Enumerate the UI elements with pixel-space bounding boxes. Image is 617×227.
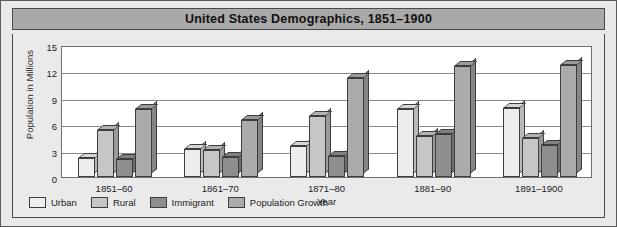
bar-side-face (152, 101, 157, 173)
legend-item[interactable]: Rural (91, 197, 136, 208)
bar[interactable] (135, 109, 152, 177)
bar-front-face (328, 156, 345, 177)
y-axis-title: Population in Millions (24, 30, 35, 160)
bar[interactable] (328, 156, 345, 177)
bar-group (381, 47, 487, 177)
legend-label: Population Growth (250, 197, 328, 208)
bars-layer (62, 47, 591, 177)
chart-panel: Population in Millions 03691215 1851–601… (12, 34, 605, 218)
legend-item[interactable]: Immigrant (150, 197, 214, 208)
y-axis-tick-label: 9 (52, 94, 57, 105)
bar[interactable] (222, 157, 239, 177)
x-axis-tick-label: 1891–1900 (515, 183, 563, 194)
bar-front-face (503, 108, 520, 177)
bar-front-face (97, 130, 114, 177)
bar-group (62, 47, 168, 177)
bar-front-face (522, 138, 539, 177)
bar[interactable] (347, 78, 364, 177)
bar-group (168, 47, 274, 177)
bar-front-face (203, 150, 220, 177)
x-axis-tick-label: 1861–70 (202, 183, 239, 194)
y-axis-tick-label: 0 (52, 174, 57, 185)
bar[interactable] (454, 66, 471, 177)
bar[interactable] (541, 145, 558, 177)
bar-side-face (364, 70, 369, 173)
x-axis-tick-label: 1871–80 (308, 183, 345, 194)
bar[interactable] (78, 158, 95, 177)
legend-label: Urban (51, 197, 77, 208)
y-axis-tick-label: 15 (46, 42, 57, 53)
legend-label: Rural (113, 197, 136, 208)
bar[interactable] (97, 130, 114, 177)
bar-front-face (454, 66, 471, 177)
bar[interactable] (560, 65, 577, 177)
legend-item[interactable]: Population Growth (228, 197, 328, 208)
bar[interactable] (184, 149, 201, 177)
bar-front-face (347, 78, 364, 177)
bar[interactable] (290, 146, 307, 177)
bar[interactable] (116, 159, 133, 177)
bar-side-face (471, 58, 476, 173)
y-axis-tick-label: 3 (52, 147, 57, 158)
bar-front-face (78, 158, 95, 177)
bar[interactable] (397, 109, 414, 177)
bar-front-face (397, 109, 414, 177)
legend-item[interactable]: Urban (29, 197, 77, 208)
bar-front-face (135, 109, 152, 177)
bar-side-face (258, 112, 263, 173)
y-axis-tick-label: 6 (52, 121, 57, 132)
chart-title: United States Demographics, 1851–1900 (185, 12, 432, 26)
x-axis-tick-label: 1881–90 (414, 183, 451, 194)
bar[interactable] (503, 108, 520, 177)
bar-side-face (577, 57, 582, 173)
bar[interactable] (203, 150, 220, 177)
legend-swatch-rural (91, 197, 108, 208)
chart-title-bar: United States Demographics, 1851–1900 (12, 8, 605, 30)
plot-area: 03691215 (61, 46, 592, 178)
y-axis-tick-label: 12 (46, 68, 57, 79)
bar-front-face (290, 146, 307, 177)
bar[interactable] (241, 120, 258, 177)
x-axis-tick-label: 1851–60 (96, 183, 133, 194)
legend-swatch-urban (29, 197, 46, 208)
bar-front-face (416, 136, 433, 177)
legend-label: Immigrant (172, 197, 214, 208)
bar-front-face (435, 134, 452, 177)
legend-swatch-immigrant (150, 197, 167, 208)
bar-front-face (241, 120, 258, 177)
chart-legend: UrbanRuralImmigrantPopulation Growth (29, 197, 342, 208)
bar-front-face (222, 157, 239, 177)
bar[interactable] (309, 116, 326, 177)
bar-front-face (309, 116, 326, 177)
legend-swatch-population-growth (228, 197, 245, 208)
bar[interactable] (416, 136, 433, 177)
bar-group (274, 47, 380, 177)
bar[interactable] (435, 134, 452, 177)
bar-front-face (541, 145, 558, 177)
bar-front-face (560, 65, 577, 177)
bar-front-face (184, 149, 201, 177)
chart-figure: United States Demographics, 1851–1900 Po… (0, 0, 617, 227)
bar-front-face (116, 159, 133, 177)
bar-group (487, 47, 593, 177)
bar[interactable] (522, 138, 539, 177)
